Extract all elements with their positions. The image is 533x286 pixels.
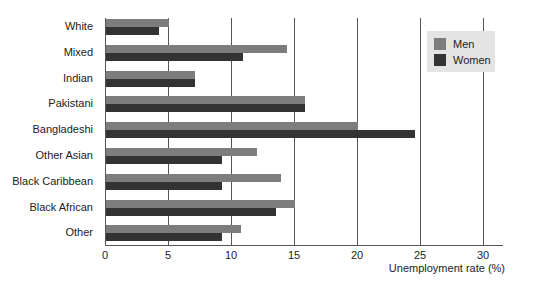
bar-men [106,19,169,27]
category-label: Black African [29,201,93,213]
bar-women [106,79,195,87]
legend-label-men: Men [453,38,474,50]
bar-men [106,174,281,182]
unemployment-bar-chart: WhiteMixedIndianPakistaniBangladeshiOthe… [0,0,533,286]
legend: Men Women [427,31,495,72]
x-tick-label: 5 [165,249,171,261]
legend-item-men: Men [434,38,474,50]
bar-women [106,53,243,61]
gridline [420,18,421,245]
legend-label-women: Women [453,54,491,66]
x-tick-label: 15 [288,249,300,261]
women-swatch-icon [434,54,446,66]
category-label: Pakistani [48,97,93,109]
bar-men [106,225,241,233]
bar-men [106,45,287,53]
bar-women [106,104,305,112]
bar-women [106,182,222,190]
bar-men [106,71,195,79]
bar-men [106,122,358,130]
x-axis-label: Unemployment rate (%) [389,262,505,274]
bar-men [106,148,257,156]
x-tick-label: 0 [102,249,108,261]
x-axis [105,245,503,246]
men-swatch-icon [434,38,446,50]
category-label: Bangladeshi [32,123,93,135]
x-tick-label: 10 [225,249,237,261]
category-label: White [65,20,93,32]
x-tick-label: 20 [351,249,363,261]
bar-women [106,130,415,138]
category-label: Other [65,226,93,238]
category-label: Black Caribbean [12,175,93,187]
bar-women [106,208,276,216]
bar-women [106,27,159,35]
legend-item-women: Women [434,54,491,66]
category-label: Mixed [64,46,93,58]
bar-men [106,96,305,104]
category-label: Other Asian [36,149,93,161]
x-tick-label: 30 [477,249,489,261]
category-label: Indian [63,72,93,84]
bar-men [106,200,295,208]
bar-women [106,156,222,164]
x-tick-label: 25 [414,249,426,261]
bar-women [106,233,222,241]
